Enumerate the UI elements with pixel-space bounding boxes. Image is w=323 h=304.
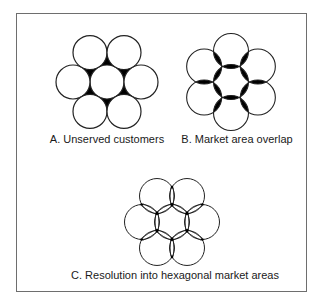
- market-area-circle: [124, 65, 158, 99]
- panel-c-hexagonal-resolution: [125, 179, 220, 266]
- market-area-circle: [214, 34, 249, 69]
- market-area-circle: [73, 36, 107, 70]
- market-area-circle: [107, 94, 141, 128]
- market-area-circle: [240, 80, 275, 115]
- overlap-fills: [187, 34, 276, 131]
- market-area-circle: [240, 49, 275, 84]
- hexagon-boundaries: [140, 186, 203, 259]
- panel-c-label: C. Resolution into hexagonal market area…: [71, 269, 279, 281]
- panel-a-label: A. Unserved customers: [50, 133, 164, 145]
- market-area-circle: [214, 65, 249, 100]
- market-area-circle: [214, 96, 249, 131]
- panel-b-market-overlap: [187, 34, 276, 131]
- market-area-circle: [90, 65, 124, 99]
- market-area-circle: [187, 49, 222, 84]
- market-areas-diagram: [0, 0, 323, 304]
- panel-b-label: B. Market area overlap: [181, 133, 292, 145]
- market-area-circle: [56, 65, 90, 99]
- market-area-circle: [73, 94, 107, 128]
- market-area-circle: [187, 80, 222, 115]
- market-area-circle: [107, 36, 141, 70]
- panel-a-unserved-customers: [56, 36, 158, 129]
